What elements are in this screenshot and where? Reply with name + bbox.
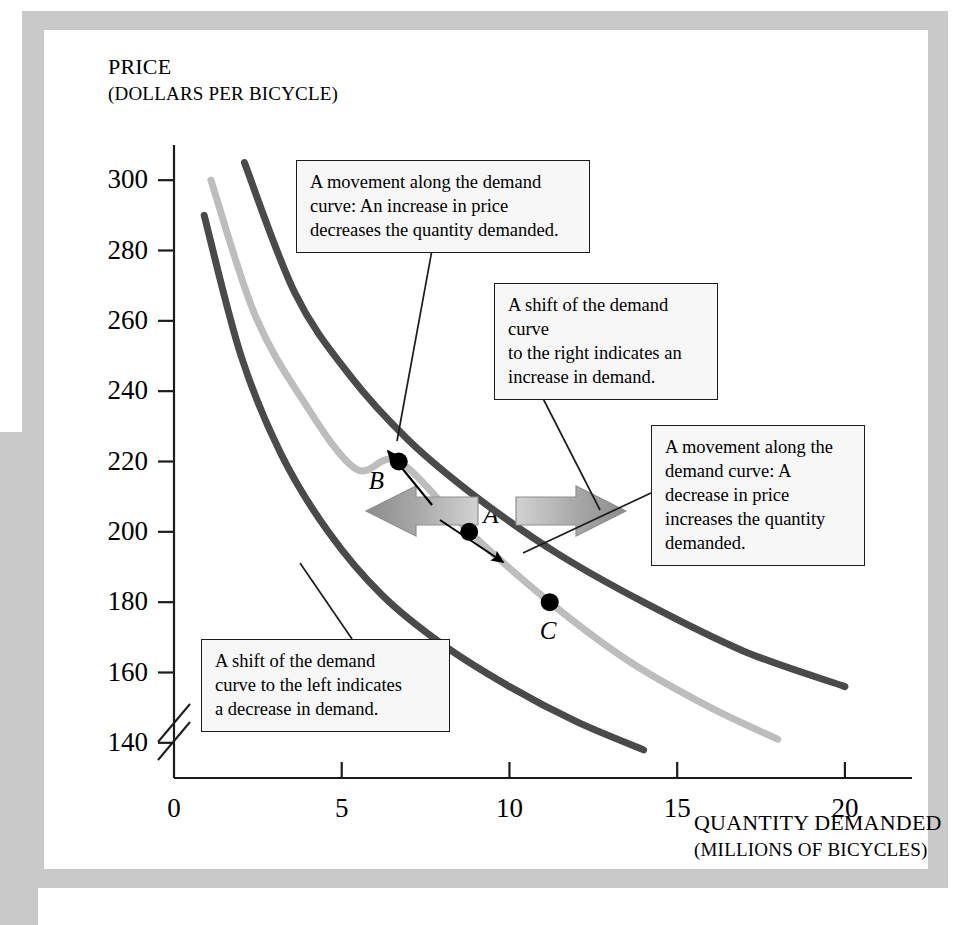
callout-line: decreases the quantity demanded. xyxy=(310,218,577,242)
callout-line: A movement along the xyxy=(665,435,852,459)
callout-movement-along-curve-increase: A movement along the demandcurve: An inc… xyxy=(296,160,590,253)
figure-root: PRICE (DOLLARS PER BICYCLE) QUANTITY DEM… xyxy=(0,0,970,925)
callout-line: curve to the left indicates xyxy=(215,673,437,697)
leader-movement-up xyxy=(397,250,432,441)
callout-line: a decrease in demand. xyxy=(215,697,437,721)
callout-shift-left: A shift of the demandcurve to the left i… xyxy=(201,639,450,732)
callout-line: curve: An increase in price xyxy=(310,194,577,218)
callout-line: A shift of the demand curve xyxy=(508,293,705,341)
data-point-a xyxy=(460,523,478,541)
callout-line: increases the quantity xyxy=(665,507,852,531)
callout-line: increase in demand. xyxy=(508,365,705,389)
data-point-b xyxy=(390,453,408,471)
leader-shift-left xyxy=(300,563,352,639)
callout-line: decrease in price xyxy=(665,483,852,507)
callout-line: A shift of the demand xyxy=(215,649,437,673)
callout-line: to the right indicates an xyxy=(508,341,705,365)
callout-shift-right: A shift of the demand curveto the right … xyxy=(494,283,718,400)
callout-line: demanded. xyxy=(665,531,852,555)
right-shift-arrow xyxy=(516,486,626,536)
data-point-c xyxy=(541,593,559,611)
callout-movement-along-curve-decrease: A movement along thedemand curve: Adecre… xyxy=(651,425,865,566)
callout-line: A movement along the demand xyxy=(310,170,577,194)
callout-line: demand curve: A xyxy=(665,459,852,483)
